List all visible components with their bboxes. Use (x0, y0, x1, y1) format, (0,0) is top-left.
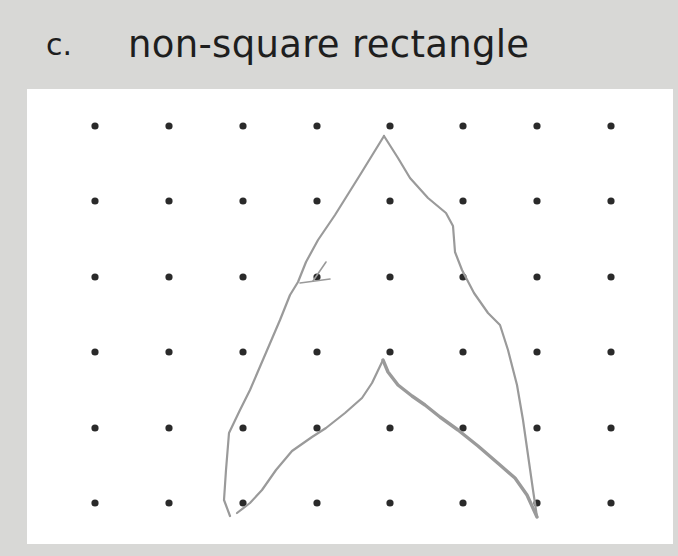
grid-dot[interactable] (313, 499, 320, 506)
grid-dot[interactable] (533, 197, 540, 204)
grid-dot[interactable] (607, 348, 614, 355)
grid-dot[interactable] (165, 122, 172, 129)
grid-dot[interactable] (91, 122, 98, 129)
grid-dot[interactable] (533, 273, 540, 280)
grid-dot[interactable] (165, 499, 172, 506)
grid-dot[interactable] (607, 424, 614, 431)
grid-dot[interactable] (459, 122, 466, 129)
grid-dot[interactable] (386, 273, 393, 280)
grid-dot[interactable] (91, 273, 98, 280)
shape-inner-left-edge (237, 360, 383, 513)
grid-dot[interactable] (607, 197, 614, 204)
grid-dot[interactable] (533, 348, 540, 355)
grid-dot[interactable] (313, 122, 320, 129)
grid-dot[interactable] (165, 197, 172, 204)
grid-dot[interactable] (459, 499, 466, 506)
grid-dot[interactable] (533, 424, 540, 431)
grid-dot[interactable] (91, 424, 98, 431)
grid-dot[interactable] (607, 273, 614, 280)
grid-dot[interactable] (459, 197, 466, 204)
grid-dot[interactable] (607, 122, 614, 129)
grid-dot[interactable] (239, 122, 246, 129)
shape-outer-right-edge (384, 136, 537, 517)
grid-dot[interactable] (533, 122, 540, 129)
grid-dot[interactable] (91, 197, 98, 204)
grid-dot[interactable] (165, 348, 172, 355)
shape-inner-right-edge (383, 360, 537, 517)
shape-outer-left-edge (224, 136, 384, 516)
grid-dot[interactable] (386, 424, 393, 431)
grid-dot[interactable] (239, 273, 246, 280)
hand-drawn-shape (224, 136, 537, 517)
grid-dot[interactable] (313, 197, 320, 204)
grid-dot[interactable] (91, 499, 98, 506)
grid-dot[interactable] (313, 348, 320, 355)
grid-dot[interactable] (165, 273, 172, 280)
grid-dot[interactable] (386, 122, 393, 129)
grid-dots (91, 122, 614, 506)
grid-dot[interactable] (386, 197, 393, 204)
grid-dot[interactable] (239, 348, 246, 355)
dot-grid-drawing[interactable] (0, 0, 678, 556)
grid-dot[interactable] (239, 424, 246, 431)
grid-dot[interactable] (91, 348, 98, 355)
grid-dot[interactable] (165, 424, 172, 431)
grid-dot[interactable] (607, 499, 614, 506)
grid-dot[interactable] (386, 348, 393, 355)
grid-dot[interactable] (239, 197, 246, 204)
grid-dot[interactable] (386, 499, 393, 506)
grid-dot[interactable] (459, 348, 466, 355)
grid-dot[interactable] (313, 424, 320, 431)
